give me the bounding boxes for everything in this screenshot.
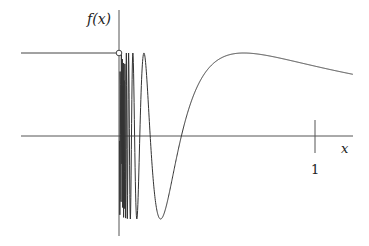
function-plot: f(x) x 1 xyxy=(0,0,369,246)
x-axis-label: x xyxy=(341,141,349,156)
open-circle-endpoint xyxy=(116,50,122,56)
x-tick-label-1: 1 xyxy=(311,162,319,177)
y-axis-label: f(x) xyxy=(86,11,111,27)
